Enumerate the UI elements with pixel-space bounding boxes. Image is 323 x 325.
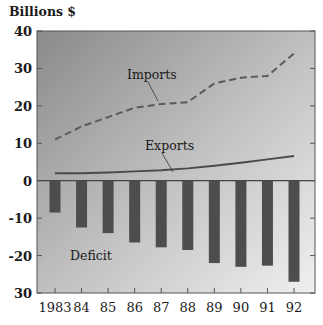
deficit-bar <box>209 181 220 263</box>
x-tick-label: 88 <box>180 300 197 315</box>
deficit-bar <box>103 181 114 233</box>
x-tick-label: 86 <box>126 300 143 315</box>
deficit-bar <box>156 181 167 248</box>
y-tick-label: -10 <box>9 211 33 226</box>
deficit-bar <box>182 181 193 250</box>
exports-label: Exports <box>145 138 194 153</box>
x-axis-labels: 1983848586878889909192 <box>38 300 302 315</box>
deficit-bar <box>262 181 273 266</box>
y-tick-label: 30 <box>14 61 32 76</box>
y-tick-label: 10 <box>14 136 32 151</box>
deficit-bar <box>235 181 246 267</box>
deficit-bar <box>289 181 300 282</box>
x-tick-label: 89 <box>206 300 223 315</box>
y-tick-label: 40 <box>14 24 32 39</box>
deficit-bar <box>50 181 61 213</box>
x-tick-label: 91 <box>259 300 276 315</box>
y-tick-label: -20 <box>9 249 33 264</box>
y-tick-label: 20 <box>14 99 32 114</box>
chart: 403020100-10-2030 1983848586878889909192… <box>0 0 323 325</box>
deficit-bar <box>129 181 140 243</box>
x-tick-label: 87 <box>153 300 170 315</box>
x-tick-label: 90 <box>233 300 250 315</box>
y-axis-labels: 403020100-10-2030 <box>9 24 33 301</box>
deficit-bar <box>76 181 87 228</box>
x-tick-label: 92 <box>286 300 303 315</box>
x-tick-label: 84 <box>73 300 90 315</box>
x-tick-label: 1983 <box>38 300 71 315</box>
y-tick-label: 30 <box>14 286 32 301</box>
imports-label: Imports <box>127 67 177 82</box>
y-tick-label: 0 <box>23 174 32 189</box>
deficit-label: Deficit <box>70 248 112 263</box>
x-tick-label: 85 <box>100 300 117 315</box>
